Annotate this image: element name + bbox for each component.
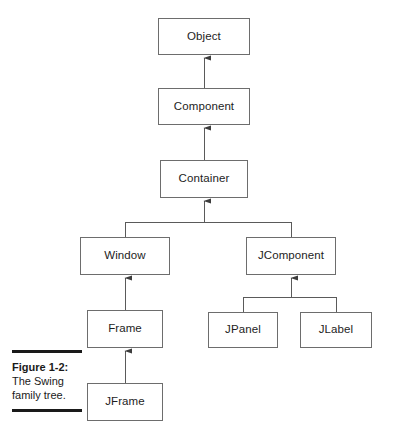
class-label-container: Container <box>179 173 230 185</box>
class-label-window: Window <box>104 250 146 262</box>
class-label-jframe: JFrame <box>105 396 145 408</box>
class-label-jcomponent: JComponent <box>258 250 324 262</box>
class-label-jlabel: JLabel <box>319 324 354 336</box>
class-label-frame: Frame <box>108 323 142 335</box>
class-label-object: Object <box>187 31 221 43</box>
class-box-jcomponent: JComponent <box>246 237 336 275</box>
class-label-component: Component <box>174 101 234 113</box>
caption-text: Figure 1-2: The Swing family tree. <box>12 360 82 402</box>
class-label-jpanel: JPanel <box>225 324 261 336</box>
class-box-frame: Frame <box>87 310 163 348</box>
caption-rule-bottom <box>12 409 82 412</box>
caption-line-1: The Swing <box>12 374 82 388</box>
caption-title: Figure 1-2: <box>12 360 82 374</box>
class-box-jlabel: JLabel <box>300 312 372 348</box>
class-box-window: Window <box>80 237 170 275</box>
class-box-object: Object <box>158 18 250 55</box>
figure-caption: Figure 1-2: The Swing family tree. <box>12 350 82 412</box>
caption-rule-top <box>12 350 82 353</box>
class-box-jframe: JFrame <box>87 383 163 421</box>
caption-line-2: family tree. <box>12 388 82 402</box>
class-box-component: Component <box>158 88 250 125</box>
class-box-jpanel: JPanel <box>208 312 278 348</box>
figure-swing-family-tree: Object Component Container Window JCompo… <box>0 0 393 443</box>
class-box-container: Container <box>160 160 248 198</box>
